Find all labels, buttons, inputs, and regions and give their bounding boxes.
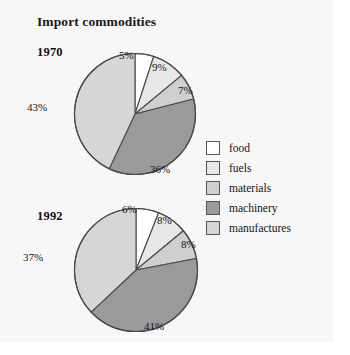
legend-item-food: food xyxy=(206,139,291,157)
pie-1970-svg xyxy=(73,52,197,176)
pie-1992-label-materials: 8% xyxy=(181,238,196,250)
year-label-1992: 1992 xyxy=(37,209,63,224)
year-label-1970: 1970 xyxy=(37,45,63,60)
pie-1970-label-fuels: 9% xyxy=(152,61,167,73)
pie-1970-label-materials: 7% xyxy=(178,84,193,96)
page-title: Import commodities xyxy=(37,14,156,30)
legend-label-machinery: machinery xyxy=(229,202,278,214)
pie-chart-1970 xyxy=(73,52,197,176)
legend-item-manufactures: manufactures xyxy=(206,219,291,237)
legend-label-food: food xyxy=(229,142,250,154)
pie-chart-1992 xyxy=(73,207,199,333)
pie-1992-label-manufactures: 37% xyxy=(23,251,43,263)
pie-1992-svg xyxy=(73,207,199,333)
pie-1970-label-manufactures: 43% xyxy=(27,101,47,113)
pie-1992-label-fuels: 8% xyxy=(157,214,172,226)
legend-label-fuels: fuels xyxy=(229,162,251,174)
legend: food fuels materials machinery manufactu… xyxy=(206,139,291,239)
legend-swatch-food xyxy=(206,141,220,155)
legend-label-manufactures: manufactures xyxy=(229,222,291,234)
legend-swatch-materials xyxy=(206,181,220,195)
legend-item-machinery: machinery xyxy=(206,199,291,217)
pie-1970-label-food: 5% xyxy=(119,49,134,61)
legend-item-fuels: fuels xyxy=(206,159,291,177)
legend-swatch-fuels xyxy=(206,161,220,175)
legend-item-materials: materials xyxy=(206,179,291,197)
chart-figure: Import commodities 1970 5% 9% 7% 36% 43%… xyxy=(0,0,333,342)
pie-1992-label-machinery: 41% xyxy=(144,320,164,332)
pie-1992-label-food: 6% xyxy=(122,203,137,215)
legend-swatch-manufactures xyxy=(206,221,220,235)
legend-label-materials: materials xyxy=(229,182,271,194)
legend-swatch-machinery xyxy=(206,201,220,215)
pie-1970-label-machinery: 36% xyxy=(150,163,170,175)
